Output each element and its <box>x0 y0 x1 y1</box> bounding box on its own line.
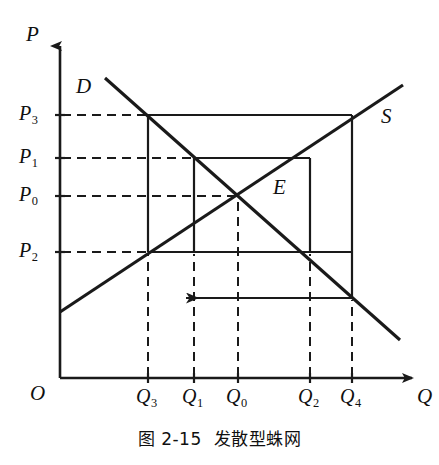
price-tick-label-p1: P1 <box>19 146 38 169</box>
quantity-tick-base-q0: Q <box>226 385 240 407</box>
price-tick-sub-p3: 3 <box>32 113 38 127</box>
equilibrium-point-label: E <box>273 177 286 198</box>
price-guide-lines <box>62 115 240 252</box>
cobweb-figure: P Q O D S E P3 P1 P0 P2 Q3 Q1 Q0 Q2 Q4 图… <box>0 0 439 465</box>
figure-caption-title: 发散型蛛网 <box>214 429 302 449</box>
figure-caption-number: 图 2-15 <box>138 429 202 449</box>
price-tick-label-p0: P0 <box>19 184 38 207</box>
figure-caption: 图 2-15发散型蛛网 <box>0 425 439 450</box>
quantity-tick-label-q2: Q2 <box>298 386 319 409</box>
quantity-tick-sub-q4: 4 <box>355 396 361 410</box>
quantity-tick-base-q3: Q <box>136 385 150 407</box>
quantity-tick-base-q2: Q <box>298 385 312 407</box>
quantity-tick-label-q0: Q0 <box>226 386 247 409</box>
quantity-tick-base-q1: Q <box>182 385 196 407</box>
y-axis-label: P <box>26 24 39 45</box>
quantity-guide-lines <box>148 198 352 376</box>
quantity-tick-sub-q3: 3 <box>151 396 157 410</box>
price-tick-sub-p0: 0 <box>32 194 38 208</box>
demand-curve-label: D <box>76 76 91 97</box>
quantity-tick-base-q4: Q <box>340 385 354 407</box>
supply-curve-label: S <box>381 106 392 127</box>
price-tick-base-p1: P <box>19 145 31 167</box>
quantity-tick-label-q4: Q4 <box>340 386 361 409</box>
quantity-tick-sub-q1: 1 <box>197 396 203 410</box>
quantity-tick-sub-q0: 0 <box>241 396 247 410</box>
price-tick-sub-p1: 1 <box>32 156 38 170</box>
origin-label: O <box>30 383 45 404</box>
price-tick-base-p3: P <box>19 102 31 124</box>
price-tick-base-p2: P <box>19 239 31 261</box>
cobweb-diagram-canvas <box>0 0 439 465</box>
x-axis-label: Q <box>417 386 432 407</box>
quantity-tick-label-q1: Q1 <box>182 386 203 409</box>
price-tick-label-p2: P2 <box>19 240 38 263</box>
price-tick-base-p0: P <box>19 183 31 205</box>
quantity-tick-label-q3: Q3 <box>136 386 157 409</box>
price-tick-sub-p2: 2 <box>32 250 38 264</box>
price-tick-label-p3: P3 <box>19 103 38 126</box>
quantity-tick-sub-q2: 2 <box>313 396 319 410</box>
axes-group <box>60 46 412 378</box>
